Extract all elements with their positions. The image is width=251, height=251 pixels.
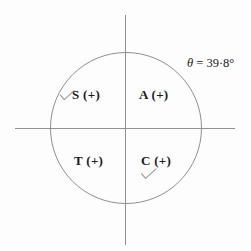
quadrant-label-sine: S (+) <box>72 87 100 103</box>
cast-quadrant-diagram: S (+) A (+) T (+) C (+) θ = 39·8° <box>0 0 251 251</box>
quadrant-label-tangent: T (+) <box>74 153 103 169</box>
angle-annotation: θ = 39·8° <box>187 56 234 71</box>
quadrant-label-all: A (+) <box>139 87 169 103</box>
unit-circle <box>50 52 202 204</box>
equals-sign: = <box>193 56 206 70</box>
angle-value: 39·8° <box>206 56 234 70</box>
check-mark-icon <box>141 168 156 180</box>
quadrant-label-cosine: C (+) <box>141 153 171 169</box>
